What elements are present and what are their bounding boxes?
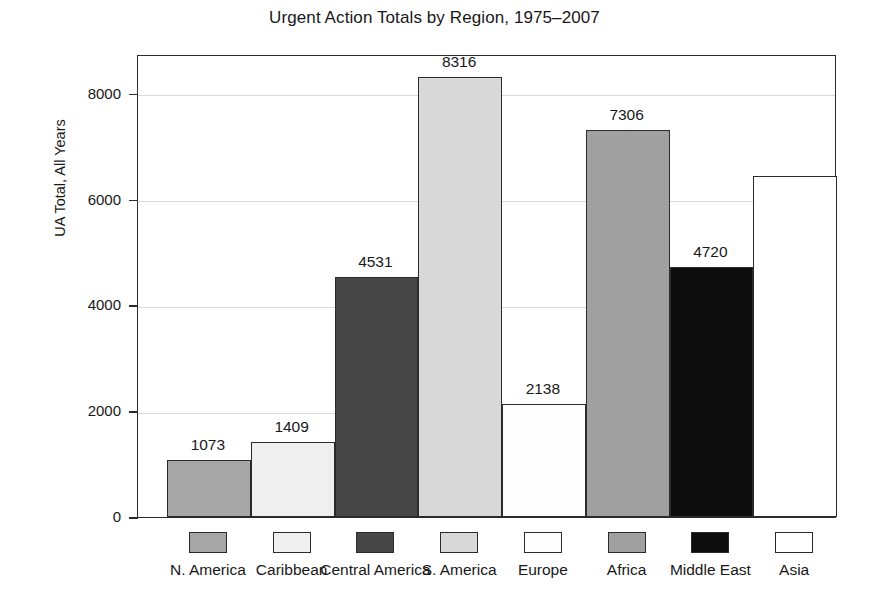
legend: N. AmericaCaribbeanCentral AmericaS. Ame…	[137, 528, 836, 598]
bar-value-label: 1073	[166, 436, 250, 454]
legend-swatch-caribbean[interactable]	[273, 532, 311, 553]
bar-caribbean[interactable]	[251, 442, 335, 517]
bar-value-label: 7306	[585, 106, 669, 124]
bar-value-label: 2138	[501, 380, 585, 398]
legend-swatch-s-america[interactable]	[440, 532, 478, 553]
bar-africa[interactable]	[586, 130, 670, 517]
bar-europe[interactable]	[502, 404, 586, 517]
bar-middle-east[interactable]	[670, 267, 754, 517]
bar-asia[interactable]	[753, 176, 837, 517]
y-tick-label: 0	[51, 508, 121, 525]
legend-label-asia: Asia	[714, 561, 869, 579]
y-tick-label: 6000	[51, 191, 121, 208]
bar-value-label: 1409	[250, 418, 334, 436]
y-tick-label: 4000	[51, 296, 121, 313]
chart-title: Urgent Action Totals by Region, 1975–200…	[0, 8, 869, 28]
bar-central-america[interactable]	[335, 277, 419, 517]
y-tick-label: 2000	[51, 402, 121, 419]
legend-swatch-central-america[interactable]	[356, 532, 394, 553]
legend-swatch-n-america[interactable]	[189, 532, 227, 553]
bar-n-america[interactable]	[167, 460, 251, 517]
legend-swatch-africa[interactable]	[608, 532, 646, 553]
bar-value-label: 4720	[669, 243, 753, 261]
bar-s-america[interactable]	[418, 77, 502, 517]
bar-chart: Urgent Action Totals by Region, 1975–200…	[0, 0, 869, 604]
y-tick-label: 8000	[51, 85, 121, 102]
legend-swatch-asia[interactable]	[775, 532, 813, 553]
legend-swatch-middle-east[interactable]	[691, 532, 729, 553]
bar-value-label: 8316	[417, 53, 501, 71]
legend-swatch-europe[interactable]	[524, 532, 562, 553]
bar-value-label: 4531	[334, 253, 418, 271]
